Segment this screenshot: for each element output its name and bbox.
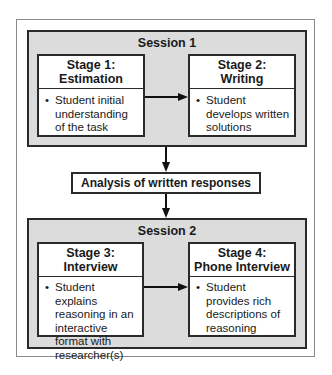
stage-2-box: Stage 2: Writing • Student develops writ… [188,54,296,137]
bullet-icon: • [196,281,200,295]
session-2-title: Session 2 [29,224,305,238]
stage-3-body: • Student explains reasoning in an inter… [45,281,138,362]
stage-3-description: Student explains reasoning in an interac… [55,281,138,362]
stage-4-title-name: Phone Interview [190,260,294,274]
stage-4-header: Stage 4: Phone Interview [190,244,294,277]
arrow-session1-to-analysis-line [165,147,167,163]
stage-3-title-name: Interview [39,260,142,274]
stage-2-header: Stage 2: Writing [190,56,294,89]
stage-3-header: Stage 3: Interview [39,244,142,277]
stage-4-body: • Student provides rich descriptions of … [196,281,290,335]
stage-1-body: • Student initial understanding of the t… [45,94,139,135]
stage-3-title-number: Stage 3: [39,246,142,260]
stage-1-title-name: Estimation [39,72,143,86]
stage-2-description: Student develops written solutions [206,94,290,135]
arrow-right-icon [178,93,188,101]
bullet-icon: • [45,281,49,295]
stage-1-title-number: Stage 1: [39,58,143,72]
bullet-icon: • [45,94,49,108]
analysis-label: Analysis of written responses [81,176,251,190]
session-1-title: Session 1 [29,36,305,50]
stage-4-title-number: Stage 4: [190,246,294,260]
arrow-down-icon [162,208,170,218]
stage-4-box: Stage 4: Phone Interview • Student provi… [188,242,296,337]
stage-2-body: • Student develops written solutions [196,94,290,135]
bullet-icon: • [196,94,200,108]
stage-4-description: Student provides rich descriptions of re… [206,281,290,335]
arrow-analysis-to-session2-line [165,194,167,209]
stage-1-box: Stage 1: Estimation • Student initial un… [37,54,145,137]
stage-1-header: Stage 1: Estimation [39,56,143,89]
arrow-stage1-to-stage2-line [145,96,179,98]
arrow-down-icon [162,162,170,172]
stage-2-title-name: Writing [190,72,294,86]
analysis-box: Analysis of written responses [71,172,261,194]
arrow-right-icon [178,283,188,291]
stage-3-box: Stage 3: Interview • Student explains re… [37,242,144,337]
stage-1-description: Student initial understanding of the tas… [55,94,139,135]
arrow-stage3-to-stage4-line [144,286,179,288]
stage-2-title-number: Stage 2: [190,58,294,72]
